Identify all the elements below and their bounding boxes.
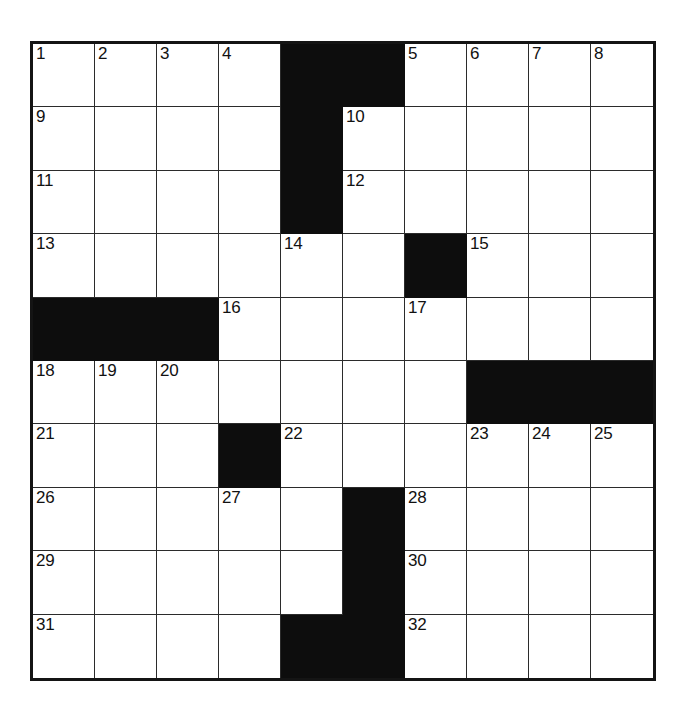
- crossword-cell[interactable]: 23: [467, 424, 529, 487]
- crossword-cell[interactable]: 24: [529, 424, 591, 487]
- crossword-cell[interactable]: [591, 615, 653, 678]
- crossword-cell[interactable]: 13: [33, 234, 95, 297]
- crossword-cell[interactable]: [281, 551, 343, 614]
- crossword-cell[interactable]: [529, 234, 591, 297]
- crossword-cell[interactable]: [219, 361, 281, 424]
- crossword-cell[interactable]: [529, 298, 591, 361]
- crossword-cell[interactable]: 20: [157, 361, 219, 424]
- crossword-cell[interactable]: 28: [405, 488, 467, 551]
- crossword-cell[interactable]: [591, 298, 653, 361]
- crossword-block-cell: [281, 44, 343, 107]
- crossword-cell[interactable]: [157, 234, 219, 297]
- crossword-cell[interactable]: 11: [33, 171, 95, 234]
- crossword-cell[interactable]: 5: [405, 44, 467, 107]
- clue-number: 5: [408, 44, 417, 63]
- crossword-cell[interactable]: [529, 107, 591, 170]
- crossword-cell[interactable]: [591, 234, 653, 297]
- crossword-cell[interactable]: 29: [33, 551, 95, 614]
- crossword-cell[interactable]: [591, 107, 653, 170]
- crossword-cell[interactable]: 2: [95, 44, 157, 107]
- crossword-cell[interactable]: [529, 551, 591, 614]
- crossword-cell[interactable]: 26: [33, 488, 95, 551]
- crossword-cell[interactable]: [591, 488, 653, 551]
- crossword-cell[interactable]: [95, 234, 157, 297]
- crossword-cell[interactable]: [467, 551, 529, 614]
- crossword-cell[interactable]: 12: [343, 171, 405, 234]
- crossword-cell[interactable]: 19: [95, 361, 157, 424]
- clue-number: 23: [470, 424, 488, 443]
- clue-number: 22: [284, 424, 302, 443]
- crossword-cell[interactable]: [405, 171, 467, 234]
- crossword-cell[interactable]: [157, 488, 219, 551]
- crossword-cell[interactable]: [529, 488, 591, 551]
- crossword-cell[interactable]: 3: [157, 44, 219, 107]
- crossword-cell[interactable]: [157, 171, 219, 234]
- crossword-cell[interactable]: 17: [405, 298, 467, 361]
- crossword-cell[interactable]: [281, 488, 343, 551]
- crossword-cell[interactable]: [219, 234, 281, 297]
- clue-number: 29: [36, 551, 54, 570]
- crossword-cell[interactable]: [157, 424, 219, 487]
- crossword-cell[interactable]: [95, 171, 157, 234]
- clue-number: 28: [408, 488, 426, 507]
- crossword-cell[interactable]: [467, 107, 529, 170]
- crossword-cell[interactable]: [405, 361, 467, 424]
- crossword-cell[interactable]: [343, 424, 405, 487]
- crossword-cell[interactable]: 4: [219, 44, 281, 107]
- clue-number: 6: [470, 44, 479, 63]
- crossword-cell[interactable]: [157, 107, 219, 170]
- crossword-cell[interactable]: 22: [281, 424, 343, 487]
- crossword-cell[interactable]: 8: [591, 44, 653, 107]
- crossword-cell[interactable]: 15: [467, 234, 529, 297]
- crossword-cell[interactable]: [467, 615, 529, 678]
- crossword-cell[interactable]: [343, 361, 405, 424]
- crossword-cell[interactable]: [95, 107, 157, 170]
- crossword-block-cell: [157, 298, 219, 361]
- crossword-cell[interactable]: [591, 171, 653, 234]
- crossword-cell[interactable]: 6: [467, 44, 529, 107]
- crossword-cell[interactable]: 9: [33, 107, 95, 170]
- crossword-cell[interactable]: [95, 615, 157, 678]
- crossword-cell[interactable]: [281, 298, 343, 361]
- crossword-cell[interactable]: [157, 551, 219, 614]
- crossword-cell[interactable]: 25: [591, 424, 653, 487]
- crossword-cell[interactable]: [157, 615, 219, 678]
- crossword-cell[interactable]: 30: [405, 551, 467, 614]
- crossword-block-cell: [281, 171, 343, 234]
- crossword-cell[interactable]: 32: [405, 615, 467, 678]
- crossword-cell[interactable]: [219, 615, 281, 678]
- crossword-cell[interactable]: [405, 107, 467, 170]
- crossword-cell[interactable]: [95, 551, 157, 614]
- crossword-cell[interactable]: [529, 171, 591, 234]
- clue-number: 8: [594, 44, 603, 63]
- crossword-cell[interactable]: [281, 361, 343, 424]
- crossword-grid[interactable]: 1234567891011121314151617181920212223242…: [30, 41, 656, 681]
- crossword-cell[interactable]: [405, 424, 467, 487]
- crossword-cell[interactable]: [95, 424, 157, 487]
- crossword-cell[interactable]: [219, 107, 281, 170]
- crossword-cell[interactable]: [343, 298, 405, 361]
- crossword-cell[interactable]: 21: [33, 424, 95, 487]
- crossword-cell[interactable]: [219, 171, 281, 234]
- crossword-cell[interactable]: 7: [529, 44, 591, 107]
- crossword-cell[interactable]: 16: [219, 298, 281, 361]
- clue-number: 4: [222, 44, 231, 63]
- clue-number: 9: [36, 107, 45, 126]
- clue-number: 24: [532, 424, 550, 443]
- crossword-cell[interactable]: [467, 298, 529, 361]
- crossword-cell[interactable]: 14: [281, 234, 343, 297]
- crossword-cell[interactable]: 31: [33, 615, 95, 678]
- crossword-cell[interactable]: [529, 615, 591, 678]
- crossword-block-cell: [95, 298, 157, 361]
- crossword-cell[interactable]: [343, 234, 405, 297]
- crossword-cell[interactable]: [467, 171, 529, 234]
- crossword-cell[interactable]: [219, 551, 281, 614]
- crossword-block-cell: [281, 107, 343, 170]
- crossword-cell[interactable]: 1: [33, 44, 95, 107]
- crossword-cell[interactable]: 10: [343, 107, 405, 170]
- crossword-cell[interactable]: [95, 488, 157, 551]
- crossword-cell[interactable]: 27: [219, 488, 281, 551]
- crossword-cell[interactable]: 18: [33, 361, 95, 424]
- crossword-cell[interactable]: [591, 551, 653, 614]
- crossword-cell[interactable]: [467, 488, 529, 551]
